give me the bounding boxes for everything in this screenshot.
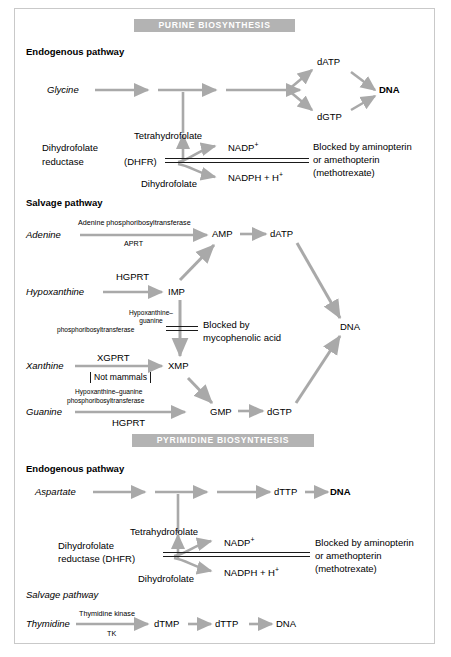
node-dna-purine-salvage: DNA [340,322,360,332]
label-xgprt: XGPRT [97,353,130,363]
figure-canvas: PURINE BIOSYNTHESIS Endogenous pathway G… [0,0,451,657]
label-blocked-mycophenolic-l1: Blocked by [203,320,249,330]
label-hgprt-guanine: HGPRT [112,418,145,428]
label-blocked-aminopterin-l2: or amethopterin [313,155,380,165]
nadp-text: NADP [228,142,254,153]
label-pyr-blocked-l2: or amethopterin [315,551,382,561]
label-blocked-aminopterin-l1: Blocked by aminopterin [313,142,412,152]
nadph-text-pyr: NADPH + H [224,567,275,578]
node-xanthine: Xanthine [26,361,64,371]
node-dttp-salvage: dTTP [215,619,238,629]
node-dgtp-endogenous: dGTP [317,112,342,122]
inhibition-bar-purine [165,158,309,163]
label-dihydrofolate-reductase-line2: reductase [42,157,84,167]
heading-pyrimidine-salvage: Salvage pathway [26,590,98,600]
node-gmp: GMP [210,407,232,417]
label-nadph-h-purine: NADPH + H+ [228,172,283,183]
node-glycine: Glycine [47,85,79,95]
node-hypoxanthine: Hypoxanthine [26,287,84,297]
label-nadp-plus-pyrimidine: NADP+ [224,537,254,548]
label-hgprt-hypoxanthine: HGPRT [116,272,149,282]
banner-purine-biosynthesis: PURINE BIOSYNTHESIS [134,19,295,32]
node-dttp-endogenous: dTTP [274,487,297,497]
label-guanine-hgprt-full-l1: Hypoxanthine–guanine [75,389,142,396]
label-thymidine-kinase-full: Thymidine kinase [79,610,135,617]
nadp-superscript-pyr: + [250,536,254,543]
nadp-text-pyr: NADP [224,537,250,548]
nadph-text: NADPH + H [228,172,279,183]
label-aprt-abbrev: APRT [124,240,143,247]
node-dna-purine-endogenous: DNA [379,85,400,95]
node-dtmp: dTMP [154,619,179,629]
inhibition-bar-imp-xmp [166,326,198,331]
node-aspartate: Aspartate [35,487,76,497]
label-pyr-dhfr-line2: reductase (DHFR) [58,554,135,564]
node-dna-pyrimidine-salvage: DNA [276,619,296,629]
label-tetrahydrofolate-pyrimidine: Tetrahydrofolate [130,527,198,537]
label-blocked-aminopterin-l3: (methotrexate) [313,168,375,178]
inhibition-bar-pyrimidine [163,552,310,557]
label-dihydrofolate-purine: Dihydrofolate [141,179,197,189]
label-hgprt-full-l3: phosphoribosyltransferase [57,327,134,334]
node-dna-pyrimidine-endogenous: DNA [330,487,351,497]
node-amp: AMP [212,229,233,239]
heading-pyrimidine-endogenous: Endogenous pathway [26,464,124,474]
node-guanine: Guanine [26,407,62,417]
label-dihydrofolate-pyrimidine: Dihydrofolate [138,574,194,584]
node-imp: IMP [168,287,185,297]
label-dhfr-abbrev: (DHFR) [124,157,157,167]
nadph-superscript: + [279,171,283,178]
label-hgprt-full-l1: Hypoxanthine– [102,310,200,317]
label-nadph-h-pyrimidine: NADPH + H+ [224,567,279,578]
node-dgtp-salvage: dGTP [267,407,292,417]
node-thymidine: Thymidine [26,619,70,629]
node-adenine: Adenine [26,230,61,240]
label-aprt-full: Adenine phosphoribosyltransferase [78,219,191,226]
label-not-mammals: Not mammals [90,372,151,383]
label-nadp-plus-purine: NADP+ [228,142,258,153]
label-guanine-hgprt-full-l2: phosphoribosyltransferase [67,398,144,405]
label-pyr-dhfr-line1: Dihydrofolate [58,541,114,551]
node-datp-salvage: dATP [270,229,293,239]
nadp-superscript: + [254,141,258,148]
banner-pyrimidine-biosynthesis: PYRIMIDINE BIOSYNTHESIS [132,434,314,447]
heading-purine-endogenous: Endogenous pathway [26,47,124,57]
node-datp-endogenous: dATP [317,57,340,67]
node-xmp: XMP [168,361,189,371]
label-hgprt-full-l2: guanine [102,318,200,325]
label-blocked-mycophenolic-l2: mycophenolic acid [203,333,281,343]
label-tetrahydrofolate-purine: Tetrahydrofolate [134,131,202,141]
label-pyr-blocked-l1: Blocked by aminopterin [315,538,414,548]
label-pyr-blocked-l3: (methotrexate) [315,564,377,574]
label-dihydrofolate-reductase-line1: Dihydrofolate [42,143,98,153]
nadph-superscript-pyr: + [275,566,279,573]
label-thymidine-kinase-abbrev: TK [107,630,116,637]
heading-purine-salvage: Salvage pathway [26,198,103,208]
